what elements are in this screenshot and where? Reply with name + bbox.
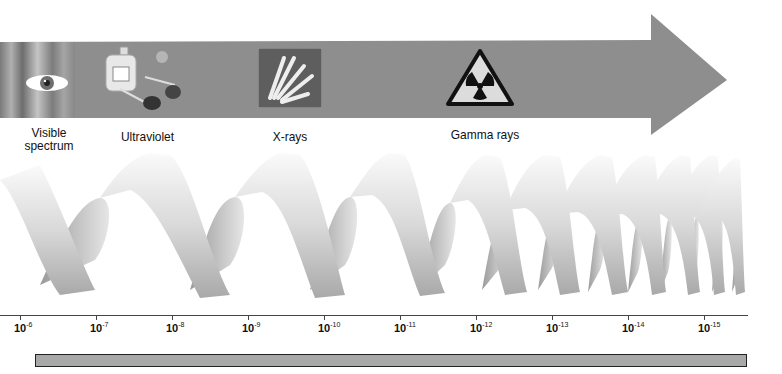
axis-tick xyxy=(324,315,325,320)
axis-tick xyxy=(96,315,97,320)
label-visible-spectrum: Visible spectrum xyxy=(17,126,81,152)
tick-label-1e-12: 10-12 xyxy=(470,322,492,334)
tick-label-1e-11: 10-11 xyxy=(394,322,416,334)
axis-tick xyxy=(400,315,401,320)
range-bar xyxy=(35,354,747,367)
axis-tick xyxy=(476,315,477,320)
tick-label-1e-8: 10-8 xyxy=(166,322,184,334)
axis-tick xyxy=(248,315,249,320)
sunscreen-sunglasses-icon xyxy=(100,45,185,119)
axis-tick xyxy=(552,315,553,320)
label-ultraviolet: Ultraviolet xyxy=(113,130,182,143)
tick-label-1e-13: 10-13 xyxy=(546,322,568,334)
tick-label-1e-10: 10-10 xyxy=(318,322,340,334)
axis-tick xyxy=(628,315,629,320)
label-visible-line2: spectrum xyxy=(17,139,81,152)
radiation-warning-icon xyxy=(445,48,515,110)
eye-icon xyxy=(25,72,69,98)
tick-label-1e-14: 10-14 xyxy=(622,322,644,334)
xray-hand-icon xyxy=(258,48,322,112)
axis-tick xyxy=(20,315,21,320)
axis-tick xyxy=(172,315,173,320)
axis-tick xyxy=(704,315,705,320)
wavelength-axis xyxy=(0,315,748,316)
wave-ribbon xyxy=(0,150,745,298)
tick-label-1e-6: 10-6 xyxy=(14,322,32,334)
label-xrays: X-rays xyxy=(267,130,313,143)
tick-label-1e-9: 10-9 xyxy=(242,322,260,334)
tick-label-1e-7: 10-7 xyxy=(90,322,108,334)
tick-label-1e-15: 10-15 xyxy=(698,322,720,334)
label-gamma-rays: Gamma rays xyxy=(444,128,527,141)
